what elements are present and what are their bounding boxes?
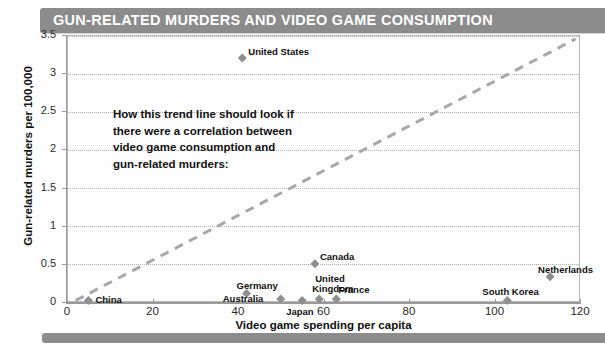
y-tick-label: 2 [12, 142, 56, 154]
y-tick-label: 3 [12, 66, 56, 78]
chart-title-bar: GUN-RELATED MURDERS AND VIDEO GAME CONSU… [40, 8, 605, 33]
x-tick-mark [409, 299, 410, 304]
gridline [68, 188, 579, 189]
page-title: GUN-RELATED MURDERS AND VIDEO GAME CONSU… [53, 12, 493, 28]
y-tick-mark [62, 226, 67, 227]
y-tick-label: 2.5 [12, 104, 56, 116]
annotation-line-2: there were a correlation between [113, 123, 343, 140]
y-tick-label: 3.5 [12, 28, 56, 40]
footer-bar [42, 333, 605, 343]
y-tick-mark [62, 264, 67, 265]
x-tick-mark [495, 299, 496, 304]
y-tick-mark [62, 73, 67, 74]
y-tick-mark [62, 111, 67, 112]
y-tick-mark [62, 35, 67, 36]
data-point-label: Japan [286, 306, 313, 317]
x-tick-label: 40 [218, 305, 258, 317]
data-point-label: United States [248, 46, 309, 57]
x-tick-mark [67, 299, 68, 304]
y-tick-mark [62, 188, 67, 189]
y-tick-mark [62, 149, 67, 150]
gridline [68, 74, 579, 75]
x-tick-mark [324, 299, 325, 304]
x-tick-label: 100 [475, 305, 515, 317]
gridline [68, 264, 579, 265]
x-tick-label: 20 [133, 305, 173, 317]
y-axis-line [66, 35, 67, 303]
gridline [68, 226, 579, 227]
data-point-label: France [338, 284, 369, 295]
data-point-label: Canada [320, 251, 354, 262]
x-tick-label: 120 [560, 305, 600, 317]
gridline [68, 36, 579, 37]
x-tick-mark [153, 299, 154, 304]
x-tick-mark [580, 299, 581, 304]
chart-figure: GUN-RELATED MURDERS AND VIDEO GAME CONSU… [0, 0, 605, 347]
data-point-label: South Korea [482, 286, 538, 297]
data-point-label: China [95, 294, 121, 305]
y-axis-title: Gun-related murders per 100,000 [22, 46, 34, 266]
data-point-label: Germany [237, 280, 278, 291]
y-tick-label: 0.5 [12, 257, 56, 269]
data-point-label: Australia [223, 293, 264, 304]
x-axis-title: Video game spending per capita [67, 319, 580, 331]
annotation-line-1: How this trend line should look if [113, 106, 343, 123]
annotation-line-4: gun-related murders: [113, 156, 343, 173]
y-tick-label: 1 [12, 219, 56, 231]
annotation-line-3: video game consumption and [113, 139, 343, 156]
x-tick-label: 80 [389, 305, 429, 317]
y-tick-label: 1.5 [12, 181, 56, 193]
data-point-label: Netherlands [538, 264, 593, 275]
trendline-annotation: How this trend line should look if there… [113, 106, 343, 172]
x-tick-label: 0 [47, 305, 87, 317]
